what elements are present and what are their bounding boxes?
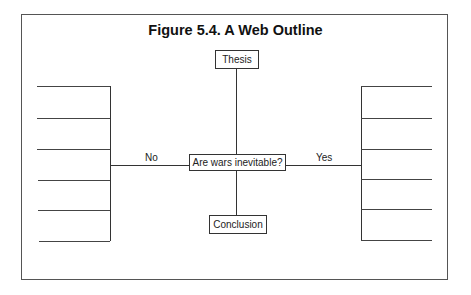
- question-box: Are wars inevitable?: [189, 154, 286, 171]
- no-label: No: [145, 152, 158, 163]
- conclusion-box: Conclusion: [209, 215, 267, 234]
- yes-label: Yes: [316, 152, 332, 163]
- right-blank-lines: [361, 87, 432, 241]
- left-blank-lines: [37, 87, 110, 242]
- web-connectors: [0, 0, 471, 295]
- thesis-box: Thesis: [215, 50, 259, 69]
